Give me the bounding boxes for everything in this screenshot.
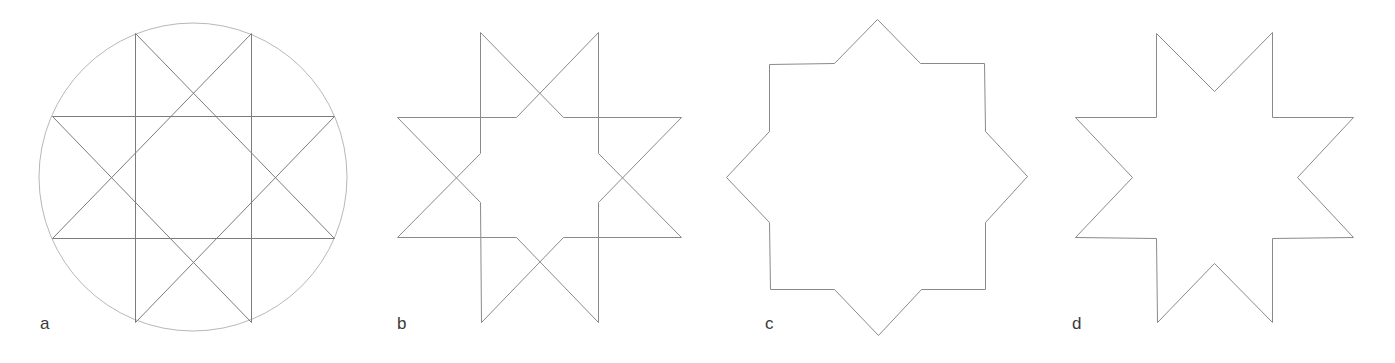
diagram-canvas xyxy=(0,0,1395,363)
circumscribed-circle xyxy=(39,23,347,331)
star-outline-c-0 xyxy=(727,20,1028,336)
panel-label-a: a xyxy=(40,315,49,332)
panel-label-d: d xyxy=(1072,315,1081,332)
star-outline-d-0 xyxy=(1076,33,1354,323)
star-outline-a-0 xyxy=(53,34,335,323)
panel-b-figure xyxy=(398,33,682,323)
star-outline-b-1 xyxy=(398,33,682,323)
panel-a-figure xyxy=(39,23,347,331)
panel-d-figure xyxy=(1076,33,1354,323)
star-outline-b-0 xyxy=(398,33,682,323)
panel-label-b: b xyxy=(397,315,406,332)
panel-label-c: c xyxy=(765,315,774,332)
panel-c-figure xyxy=(727,20,1028,336)
